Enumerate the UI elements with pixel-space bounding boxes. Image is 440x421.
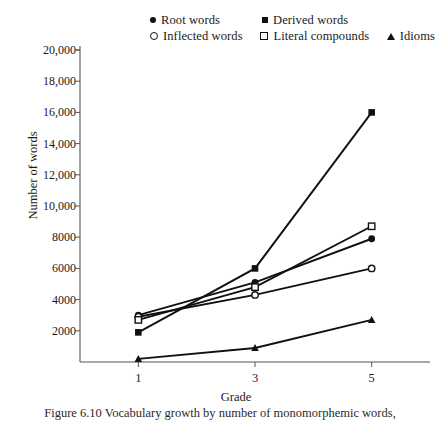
series-line-idioms — [138, 320, 371, 359]
series-line-derived-words — [138, 112, 371, 332]
figure-caption: Figure 6.10 Vocabulary growth by number … — [0, 406, 440, 421]
